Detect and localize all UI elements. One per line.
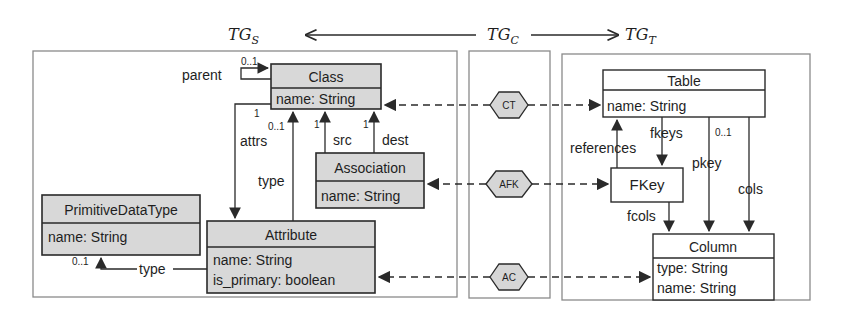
edge-label-attrs: attrs: [240, 133, 267, 149]
column-attr-type: type: String: [657, 260, 728, 276]
class-attribute: name: String: [276, 91, 355, 107]
mult-dest: 1: [363, 119, 369, 130]
edge-label-fcols: fcols: [627, 208, 656, 224]
edge-label-fkeys: fkeys: [650, 125, 683, 141]
class-name: Class: [308, 69, 343, 85]
svg-text:AFK: AFK: [499, 179, 519, 190]
svg-text:CT: CT: [502, 100, 515, 111]
class-node-table[interactable]: Table name: String: [603, 70, 765, 117]
edge-attribute-type-primitive: type 0..1: [72, 256, 207, 277]
attribute-attr-name: name: String: [213, 252, 292, 268]
column-attr-name: name: String: [657, 280, 736, 296]
edge-label-type-primitive: type: [139, 261, 166, 277]
class-node-association[interactable]: Association name: String: [316, 153, 424, 208]
attribute-attr-is-primary: is_primary: boolean: [213, 272, 335, 288]
diagram-canvas: TG_T ===== --> TGS TGC TGT Class name: S…: [0, 0, 842, 318]
source-graph-title: TGS: [228, 25, 259, 47]
edge-cols: cols: [738, 117, 763, 231]
correspondence-node-ct[interactable]: CT: [490, 92, 528, 118]
edge-label-src: src: [333, 132, 352, 148]
edge-fkeys: fkeys: [650, 117, 683, 165]
class-node-class[interactable]: Class name: String: [271, 64, 381, 109]
table-attribute: name: String: [607, 98, 686, 114]
edge-attribute-type-class: type 0..1: [258, 112, 293, 221]
edge-label-cols: cols: [738, 181, 763, 197]
edge-label-type: type: [258, 173, 285, 189]
target-graph-title: TGT: [625, 25, 657, 47]
mult-pkey: 0..1: [715, 127, 732, 138]
edge-references: references: [570, 120, 636, 168]
attribute-name: Attribute: [265, 227, 317, 243]
edge-label-references: references: [570, 140, 636, 156]
correspondence-node-afk[interactable]: AFK: [486, 171, 532, 197]
edge-fcols: fcols: [627, 202, 669, 231]
primitive-name: PrimitiveDataType: [64, 202, 178, 218]
mult-type-primitive: 0..1: [72, 256, 89, 267]
mult-parent: 0..1: [241, 56, 258, 67]
mult-src: 1: [314, 119, 320, 130]
edge-label-dest: dest: [382, 132, 409, 148]
correspondence-node-ac[interactable]: AC: [490, 264, 528, 290]
edge-attrs: attrs 1: [235, 104, 271, 218]
edge-parent: parent 0..1: [182, 56, 271, 83]
class-node-column[interactable]: Column type: String name: String: [653, 234, 774, 300]
class-node-fkey[interactable]: FKey: [611, 168, 683, 202]
edge-src: src 1: [314, 112, 352, 153]
table-name: Table: [667, 73, 701, 89]
class-node-attribute[interactable]: Attribute name: String is_primary: boole…: [207, 221, 375, 293]
fkey-name: FKey: [629, 176, 665, 193]
edge-dest: dest 1: [363, 112, 409, 153]
correspondence-graph-title: TGC: [487, 25, 519, 47]
header-graph-titles: TGS TGC TGT: [228, 25, 657, 47]
mult-attrs: 1: [254, 108, 260, 119]
primitive-attribute: name: String: [48, 229, 127, 245]
mult-attr-type: 0..1: [268, 121, 285, 132]
association-attribute: name: String: [321, 188, 400, 204]
column-name: Column: [689, 239, 737, 255]
class-node-primitive-data-type[interactable]: PrimitiveDataType name: String: [42, 195, 200, 255]
edge-label-pkey: pkey: [692, 155, 722, 171]
edge-pkey: pkey 0..1: [692, 117, 732, 231]
edge-label-parent: parent: [182, 67, 222, 83]
svg-text:AC: AC: [502, 272, 516, 283]
association-name: Association: [334, 160, 406, 176]
